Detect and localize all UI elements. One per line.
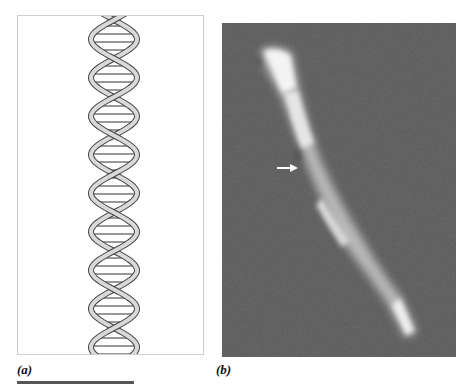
dna-helix-illustration xyxy=(18,16,204,355)
panel-label-b: (b) xyxy=(216,362,231,378)
panel-a-dna-helix-diagram xyxy=(17,15,204,355)
scale-bar xyxy=(17,381,134,384)
fiber-micrograph-image xyxy=(222,23,456,357)
panel-b-micrograph xyxy=(222,23,456,357)
panel-label-a: (a) xyxy=(17,362,32,378)
